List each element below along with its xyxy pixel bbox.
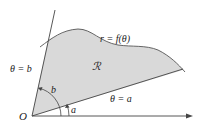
angle-a-label: a [71, 104, 76, 115]
angle-b-label: b [51, 84, 56, 95]
region-label: ℛ [92, 60, 102, 72]
curve-label: r = f(θ) [100, 33, 131, 45]
ray-a-label: θ = a [110, 93, 132, 104]
polar-region-diagram: O θ = b θ = a r = f(θ) ℛ b a [0, 0, 201, 128]
polar-axis-arrowhead-icon [186, 114, 193, 119]
origin-label: O [19, 110, 27, 122]
ray-b-label: θ = b [10, 63, 32, 74]
